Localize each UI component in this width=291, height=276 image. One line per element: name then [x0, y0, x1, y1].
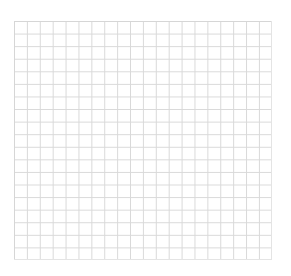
grid-canvas — [14, 21, 272, 260]
grid-right-border — [271, 21, 272, 260]
grid-bottom-border — [14, 259, 272, 260]
